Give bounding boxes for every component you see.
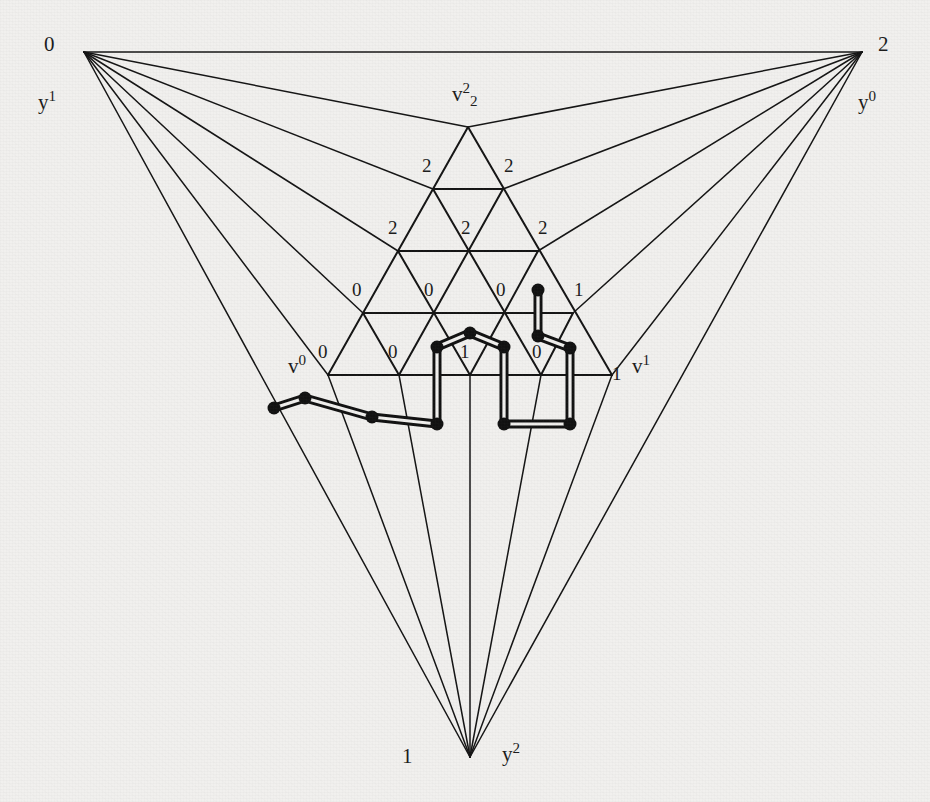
vertex-label-r4-a: 0 [318,342,328,361]
vertex-label-r2-c: 2 [538,218,548,237]
vertex-label-r2-b: 2 [461,218,471,237]
vertex-label-r4-e: 1 [612,364,622,383]
vertex-label-r2-a: 2 [388,218,398,237]
corner-label-top-right: 2 [878,34,889,55]
path-node [498,418,511,431]
vertex-label-r4-b: 0 [388,342,398,361]
diagram-canvas [0,0,930,802]
fan-b-0 [328,375,470,757]
corner-label-bottom: 1 [402,746,413,767]
vertex-name-y2: y2 [502,744,520,765]
path-node [431,418,444,431]
vertex-label-r1-b: 2 [504,156,514,175]
figure-root: 0 y1 2 y0 1 y2 v22 v0 v1 2 2 2 2 2 0 0 0… [0,0,930,802]
path-node [498,341,511,354]
path-node [564,342,577,355]
fan-tr-3 [573,52,862,313]
fan-tl-2 [84,52,398,251]
fan-tl-3 [84,52,363,313]
vertex-label-r4-c: 1 [460,342,470,361]
vertex-label-r1-a: 2 [422,156,432,175]
path-node [532,284,545,297]
path-node [464,327,477,340]
fan-b-3 [470,375,541,757]
vertex-name-v0: v0 [288,356,306,377]
corner-label-top-left: 0 [44,34,55,55]
fan-tl-0 [84,52,468,127]
fan-b-4 [470,375,612,757]
fan-tr-0 [468,52,862,127]
vertex-label-r3-a: 0 [352,280,362,299]
path-node [299,392,312,405]
vertex-name-y0: y0 [858,92,876,113]
outer-fan-lines [84,52,862,757]
vertex-label-r3-b: 0 [424,280,434,299]
vertex-label-r3-d: 1 [574,280,584,299]
path-node [564,418,577,431]
vertex-name-v1: v1 [632,356,650,377]
outer-edge-right [470,52,862,757]
vertex-name-v22: v22 [452,84,478,105]
path-node [366,411,379,424]
fan-tr-2 [538,52,862,251]
vertex-label-r3-c: 0 [496,280,506,299]
path-node [268,402,281,415]
vertex-name-y1: y1 [38,92,56,113]
path-node [431,341,444,354]
fan-b-1 [399,375,470,757]
vertex-label-r4-d: 0 [532,342,542,361]
